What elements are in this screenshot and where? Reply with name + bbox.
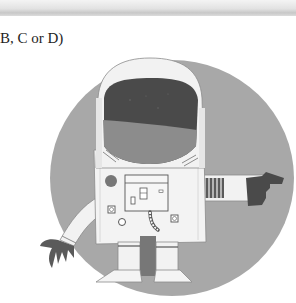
astronaut-illustration <box>0 0 296 303</box>
helmet <box>96 58 205 168</box>
